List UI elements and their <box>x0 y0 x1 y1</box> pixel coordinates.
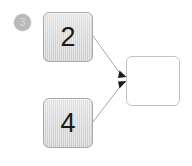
edge-line-top <box>93 36 122 76</box>
diagram-canvas: 3 2 4 <box>0 0 192 166</box>
step-number-badge: 3 <box>14 14 31 31</box>
node-value-4[interactable]: 4 <box>43 98 93 148</box>
edge-from-4-to-result <box>93 81 127 122</box>
edge-line-bottom <box>93 84 122 122</box>
node-value-2[interactable]: 2 <box>43 12 93 62</box>
step-number-badge-label: 3 <box>20 18 26 28</box>
node-value-4-label: 4 <box>60 110 75 137</box>
node-result-empty[interactable] <box>126 56 180 106</box>
node-value-2-label: 2 <box>60 24 75 51</box>
edge-from-2-to-result <box>93 36 127 78</box>
